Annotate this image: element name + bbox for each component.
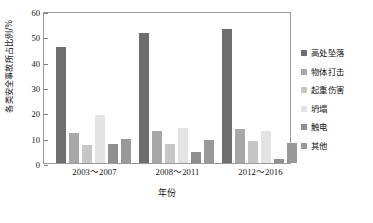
- y-axis-tick-label: 40: [18, 59, 40, 68]
- plot-area: 0102030405060: [43, 12, 291, 164]
- chart-legend: 高处坠落物体打击起重伤害坍塌触电其他: [301, 44, 371, 155]
- legend-item[interactable]: 坍塌: [301, 100, 371, 119]
- y-axis-tick-label: 60: [18, 9, 40, 18]
- bar: [56, 47, 66, 163]
- bar: [222, 29, 232, 163]
- bar: [95, 115, 105, 163]
- bar: [69, 133, 79, 163]
- bar: [178, 128, 188, 163]
- legend-swatch-icon: [301, 106, 307, 112]
- y-axis-tick-mark: [44, 165, 48, 166]
- bar: [121, 139, 131, 163]
- x-axis-tick-label: 2003～2007: [55, 168, 135, 177]
- x-axis-title: 年份: [43, 186, 291, 199]
- y-axis-tick-label: 30: [18, 85, 40, 94]
- legend-item[interactable]: 触电: [301, 118, 371, 137]
- legend-item-label: 坍塌: [311, 105, 328, 113]
- bar: [108, 144, 118, 163]
- x-axis-tick-label: 2012～2016: [221, 168, 301, 177]
- bar: [82, 145, 92, 163]
- bar: [287, 143, 297, 163]
- bar: [261, 131, 271, 163]
- legend-item-label: 触电: [311, 123, 328, 131]
- bar: [139, 33, 149, 163]
- legend-item-label: 物体打击: [311, 68, 344, 76]
- bar: [274, 159, 284, 163]
- y-axis-title: 各类安全事故所占比例/%: [5, 1, 13, 131]
- legend-swatch-icon: [301, 87, 307, 93]
- legend-swatch-icon: [301, 124, 307, 130]
- x-axis-tick-label: 2008～2011: [138, 168, 218, 177]
- bar-group: [139, 13, 218, 163]
- y-axis-tick-label: 0: [18, 161, 40, 170]
- legend-item[interactable]: 其他: [301, 137, 371, 156]
- y-axis-tick-label: 10: [18, 135, 40, 144]
- legend-item-label: 高处坠落: [311, 49, 344, 57]
- legend-item[interactable]: 物体打击: [301, 63, 371, 82]
- y-axis-tick-label: 50: [18, 34, 40, 43]
- legend-item-label: 其他: [311, 142, 328, 150]
- bar: [165, 144, 175, 163]
- bar-group: [56, 13, 135, 163]
- legend-item[interactable]: 起重伤害: [301, 81, 371, 100]
- bar-chart: 各类安全事故所占比例/% 0102030405060 2003～20072008…: [0, 0, 373, 223]
- bar: [248, 141, 258, 163]
- bar-group: [222, 13, 301, 163]
- bars-layer: [44, 13, 290, 163]
- legend-swatch-icon: [301, 143, 307, 149]
- y-axis-tick-label: 20: [18, 110, 40, 119]
- bar: [152, 131, 162, 163]
- bar: [204, 140, 214, 163]
- legend-swatch-icon: [301, 69, 307, 75]
- legend-swatch-icon: [301, 50, 307, 56]
- bar: [191, 152, 201, 163]
- legend-item-label: 起重伤害: [311, 86, 344, 94]
- bar: [235, 129, 245, 163]
- legend-item[interactable]: 高处坠落: [301, 44, 371, 63]
